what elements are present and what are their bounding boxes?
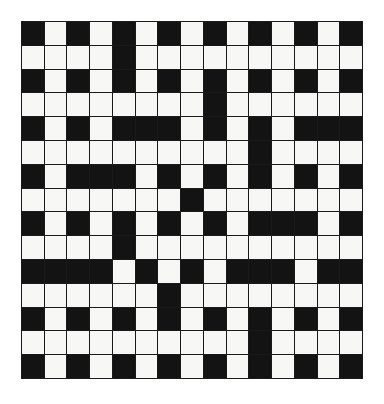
crossword-white-cell[interactable] bbox=[227, 22, 249, 45]
crossword-white-cell[interactable] bbox=[318, 212, 340, 235]
crossword-white-cell[interactable] bbox=[340, 189, 362, 212]
crossword-white-cell[interactable] bbox=[45, 165, 67, 188]
crossword-white-cell[interactable] bbox=[340, 284, 362, 307]
crossword-white-cell[interactable] bbox=[158, 46, 180, 69]
crossword-white-cell[interactable] bbox=[136, 355, 158, 378]
crossword-white-cell[interactable] bbox=[181, 331, 203, 354]
crossword-white-cell[interactable] bbox=[22, 93, 44, 116]
crossword-white-cell[interactable] bbox=[227, 308, 249, 331]
crossword-white-cell[interactable] bbox=[90, 189, 112, 212]
crossword-white-cell[interactable] bbox=[340, 331, 362, 354]
crossword-white-cell[interactable] bbox=[340, 46, 362, 69]
crossword-white-cell[interactable] bbox=[272, 46, 294, 69]
crossword-white-cell[interactable] bbox=[295, 46, 317, 69]
crossword-white-cell[interactable] bbox=[67, 46, 89, 69]
crossword-white-cell[interactable] bbox=[136, 141, 158, 164]
crossword-white-cell[interactable] bbox=[22, 141, 44, 164]
crossword-white-cell[interactable] bbox=[158, 93, 180, 116]
crossword-white-cell[interactable] bbox=[90, 355, 112, 378]
crossword-white-cell[interactable] bbox=[295, 93, 317, 116]
crossword-white-cell[interactable] bbox=[22, 189, 44, 212]
crossword-white-cell[interactable] bbox=[295, 260, 317, 283]
crossword-white-cell[interactable] bbox=[272, 284, 294, 307]
crossword-white-cell[interactable] bbox=[318, 46, 340, 69]
crossword-white-cell[interactable] bbox=[295, 284, 317, 307]
crossword-white-cell[interactable] bbox=[181, 141, 203, 164]
crossword-white-cell[interactable] bbox=[45, 212, 67, 235]
crossword-white-cell[interactable] bbox=[227, 46, 249, 69]
crossword-white-cell[interactable] bbox=[90, 70, 112, 93]
crossword-white-cell[interactable] bbox=[136, 22, 158, 45]
crossword-white-cell[interactable] bbox=[181, 70, 203, 93]
crossword-white-cell[interactable] bbox=[318, 70, 340, 93]
crossword-white-cell[interactable] bbox=[45, 22, 67, 45]
crossword-white-cell[interactable] bbox=[22, 331, 44, 354]
crossword-white-cell[interactable] bbox=[158, 236, 180, 259]
crossword-white-cell[interactable] bbox=[295, 236, 317, 259]
crossword-white-cell[interactable] bbox=[45, 355, 67, 378]
crossword-white-cell[interactable] bbox=[227, 331, 249, 354]
crossword-white-cell[interactable] bbox=[158, 260, 180, 283]
crossword-white-cell[interactable] bbox=[136, 93, 158, 116]
crossword-white-cell[interactable] bbox=[113, 93, 135, 116]
crossword-white-cell[interactable] bbox=[318, 308, 340, 331]
crossword-white-cell[interactable] bbox=[272, 355, 294, 378]
crossword-white-cell[interactable] bbox=[318, 189, 340, 212]
crossword-white-cell[interactable] bbox=[136, 165, 158, 188]
crossword-white-cell[interactable] bbox=[158, 331, 180, 354]
crossword-white-cell[interactable] bbox=[136, 46, 158, 69]
crossword-white-cell[interactable] bbox=[272, 141, 294, 164]
crossword-white-cell[interactable] bbox=[340, 141, 362, 164]
crossword-white-cell[interactable] bbox=[45, 117, 67, 140]
crossword-white-cell[interactable] bbox=[318, 236, 340, 259]
crossword-white-cell[interactable] bbox=[90, 284, 112, 307]
crossword-grid[interactable] bbox=[21, 21, 363, 379]
crossword-white-cell[interactable] bbox=[90, 117, 112, 140]
crossword-white-cell[interactable] bbox=[204, 46, 226, 69]
crossword-white-cell[interactable] bbox=[90, 308, 112, 331]
crossword-white-cell[interactable] bbox=[45, 284, 67, 307]
crossword-white-cell[interactable] bbox=[90, 93, 112, 116]
crossword-white-cell[interactable] bbox=[318, 331, 340, 354]
crossword-white-cell[interactable] bbox=[272, 22, 294, 45]
crossword-white-cell[interactable] bbox=[45, 70, 67, 93]
crossword-white-cell[interactable] bbox=[272, 189, 294, 212]
crossword-white-cell[interactable] bbox=[67, 236, 89, 259]
crossword-white-cell[interactable] bbox=[318, 93, 340, 116]
crossword-white-cell[interactable] bbox=[340, 93, 362, 116]
crossword-white-cell[interactable] bbox=[249, 46, 271, 69]
crossword-white-cell[interactable] bbox=[181, 308, 203, 331]
crossword-white-cell[interactable] bbox=[22, 46, 44, 69]
crossword-white-cell[interactable] bbox=[136, 70, 158, 93]
crossword-white-cell[interactable] bbox=[227, 284, 249, 307]
crossword-white-cell[interactable] bbox=[318, 165, 340, 188]
crossword-white-cell[interactable] bbox=[272, 236, 294, 259]
crossword-white-cell[interactable] bbox=[181, 117, 203, 140]
crossword-white-cell[interactable] bbox=[272, 308, 294, 331]
crossword-white-cell[interactable] bbox=[136, 308, 158, 331]
crossword-white-cell[interactable] bbox=[67, 331, 89, 354]
crossword-white-cell[interactable] bbox=[113, 141, 135, 164]
crossword-white-cell[interactable] bbox=[181, 165, 203, 188]
crossword-white-cell[interactable] bbox=[67, 141, 89, 164]
crossword-white-cell[interactable] bbox=[181, 93, 203, 116]
crossword-white-cell[interactable] bbox=[136, 331, 158, 354]
crossword-white-cell[interactable] bbox=[295, 189, 317, 212]
crossword-white-cell[interactable] bbox=[45, 46, 67, 69]
crossword-white-cell[interactable] bbox=[45, 141, 67, 164]
crossword-white-cell[interactable] bbox=[67, 93, 89, 116]
crossword-white-cell[interactable] bbox=[227, 212, 249, 235]
crossword-white-cell[interactable] bbox=[272, 331, 294, 354]
crossword-white-cell[interactable] bbox=[67, 284, 89, 307]
crossword-white-cell[interactable] bbox=[227, 236, 249, 259]
crossword-white-cell[interactable] bbox=[295, 141, 317, 164]
crossword-white-cell[interactable] bbox=[181, 355, 203, 378]
crossword-white-cell[interactable] bbox=[249, 284, 271, 307]
crossword-white-cell[interactable] bbox=[181, 284, 203, 307]
crossword-white-cell[interactable] bbox=[340, 236, 362, 259]
crossword-white-cell[interactable] bbox=[90, 236, 112, 259]
crossword-white-cell[interactable] bbox=[227, 70, 249, 93]
crossword-white-cell[interactable] bbox=[113, 331, 135, 354]
crossword-white-cell[interactable] bbox=[136, 212, 158, 235]
crossword-white-cell[interactable] bbox=[45, 331, 67, 354]
